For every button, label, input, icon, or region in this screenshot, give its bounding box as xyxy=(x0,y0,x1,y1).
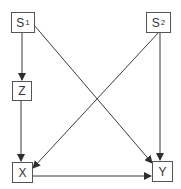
node-z: Z xyxy=(12,81,32,101)
edge-s1-y xyxy=(34,25,152,163)
node-x-label: X xyxy=(18,166,26,180)
node-s1-subscript: 1 xyxy=(25,18,29,27)
node-y-label: Y xyxy=(158,165,166,179)
node-s2: S2 xyxy=(146,12,171,33)
node-z-label: Z xyxy=(18,84,25,98)
node-s2-subscript: 2 xyxy=(161,18,165,27)
node-s1-label: S xyxy=(16,16,24,30)
node-x: X xyxy=(12,162,33,183)
node-y: Y xyxy=(152,161,173,182)
node-s2-label: S xyxy=(152,16,160,30)
edge-s2-x xyxy=(33,32,159,168)
node-s1: S1 xyxy=(11,12,35,33)
